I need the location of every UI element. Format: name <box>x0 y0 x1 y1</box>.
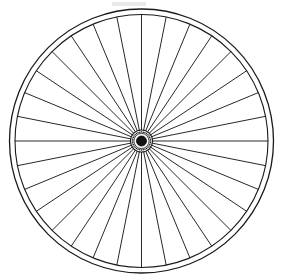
wheel-illustration: Front view line drawing of a spoked bicy… <box>0 0 289 279</box>
hub-spoke-nipple <box>143 149 145 151</box>
hub-spoke-nipple <box>132 137 134 139</box>
hub-spoke-nipple <box>132 144 134 146</box>
hub-spoke-nipple <box>141 149 143 151</box>
hub-spoke-nipple <box>144 149 146 151</box>
hub-spoke-nipple <box>148 145 150 147</box>
hub-spoke-nipple <box>132 140 134 142</box>
hub-spoke-nipple <box>137 149 139 151</box>
hub-spoke-nipple <box>133 135 135 137</box>
hub-spoke-nipple <box>137 132 139 134</box>
hub-spoke-nipple <box>139 131 141 133</box>
hub-spoke-nipple <box>149 144 151 146</box>
hub-spoke-nipple <box>146 133 148 135</box>
hub-spoke-nipple <box>136 148 138 150</box>
hub-spoke-nipple <box>147 134 149 136</box>
hub-spoke-nipple <box>134 147 136 149</box>
hub-spoke-nipple <box>150 138 152 140</box>
hub-spoke-nipple <box>133 145 135 147</box>
hub-spoke-nipple <box>144 132 146 134</box>
hub-spoke-nipple <box>148 135 150 137</box>
hub-core-circle <box>137 136 147 146</box>
hub-spoke-nipple <box>150 140 152 142</box>
hub-spoke-nipple <box>139 149 141 151</box>
hub-spoke-nipple <box>141 131 143 133</box>
wheel-svg-canvas <box>0 0 289 279</box>
hub-spoke-nipple <box>136 133 138 135</box>
scan-smudge-artifact <box>112 2 146 6</box>
hub-spoke-nipple <box>150 142 152 144</box>
hub-spoke-nipple <box>143 131 145 133</box>
hub-spoke-nipple <box>132 142 134 144</box>
hub-spoke-nipple <box>134 134 136 136</box>
hub-spoke-nipple <box>132 138 134 140</box>
hub-group <box>131 130 153 152</box>
hub-spoke-nipple <box>146 148 148 150</box>
hub-spoke-nipple <box>147 147 149 149</box>
hub-spoke-nipple <box>149 137 151 139</box>
